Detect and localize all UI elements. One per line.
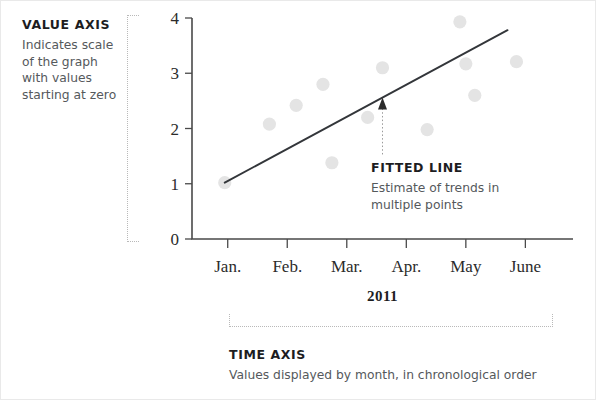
data-point xyxy=(325,156,338,169)
x-tick-label: Mar. xyxy=(331,257,363,276)
x-axis-ticks: Jan.Feb.Mar.Apr.MayJune xyxy=(214,239,541,276)
x-tick-label: Jan. xyxy=(214,257,241,276)
x-tick-label: Apr. xyxy=(391,257,421,276)
data-point xyxy=(459,57,472,70)
y-axis-ticks: 01234 xyxy=(171,9,193,249)
y-tick-label: 4 xyxy=(171,9,180,28)
infographic-canvas: VALUE AXIS Indicates scale of the graph … xyxy=(0,0,596,400)
y-tick-label: 0 xyxy=(171,230,180,249)
data-point xyxy=(263,117,276,130)
data-point xyxy=(468,89,481,102)
y-tick-label: 2 xyxy=(171,120,180,139)
data-point xyxy=(510,55,523,68)
x-tick-label: June xyxy=(510,257,541,276)
x-axis-title: 2011 xyxy=(367,288,398,304)
data-point xyxy=(421,123,434,136)
data-point xyxy=(376,61,389,74)
data-point xyxy=(453,15,466,28)
y-tick-label: 1 xyxy=(171,175,180,194)
data-points-layer xyxy=(218,15,523,189)
data-point xyxy=(290,99,303,112)
callout-layer xyxy=(378,98,387,155)
scatter-chart: 01234 Jan.Feb.Mar.Apr.MayJune 2011 xyxy=(1,1,596,400)
data-point xyxy=(316,78,329,91)
fitted-line xyxy=(225,30,508,182)
data-point xyxy=(361,111,374,124)
fitted-line-layer xyxy=(225,30,508,182)
x-tick-label: Feb. xyxy=(272,257,302,276)
y-tick-label: 3 xyxy=(171,64,180,83)
x-tick-label: May xyxy=(450,257,482,276)
